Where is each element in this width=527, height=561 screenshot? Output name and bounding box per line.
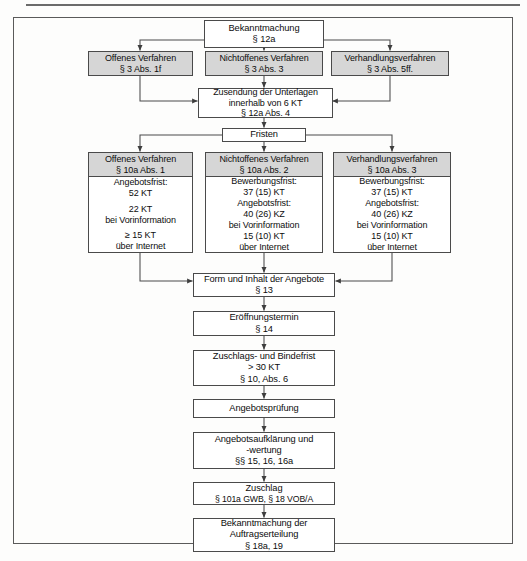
node-line: Angebotsprüfung <box>229 403 298 414</box>
node-offenes-verfahren-top[interactable]: Offenes Verfahren § 3 Abs. 1f <box>88 51 193 76</box>
node-line: § 13 <box>255 285 273 296</box>
node-line: Zuschlag <box>246 483 283 494</box>
node-line: Offenes Verfahren <box>105 154 176 165</box>
node-line: Angebotsfrist: <box>237 198 291 209</box>
node-line: Fristen <box>250 129 278 140</box>
node-offenes-verfahren-header[interactable]: Offenes Verfahren § 10a Abs. 1 <box>88 152 193 177</box>
node-line: § 3 Abs. 5ff. <box>367 64 413 75</box>
node-eroeffnungstermin[interactable]: Eröffnungstermin § 14 <box>193 311 335 336</box>
node-fristen[interactable]: Fristen <box>222 128 306 142</box>
node-line: § 18a, 19 <box>245 541 283 552</box>
node-line: 15 (10) KT <box>243 231 285 242</box>
node-line: Angebotsfrist: <box>365 198 419 209</box>
node-nichtoffenes-verfahren-header[interactable]: Nichtoffenes Verfahren § 10a Abs. 2 <box>205 152 323 177</box>
node-verhandlungsverfahren-top[interactable]: Verhandlungsverfahren § 3 Abs. 5ff. <box>331 51 449 76</box>
node-line: Form und Inhalt der Angebote <box>204 274 324 285</box>
node-line: 22 KT <box>129 204 153 215</box>
node-line: 37 (15) KT <box>243 187 285 198</box>
node-line: § 101a GWB, § 18 VOB/A <box>215 494 313 505</box>
node-line: Angebotsaufklärung und <box>215 434 314 445</box>
node-bekanntmachung[interactable]: Bekanntmachung § 12a <box>204 20 324 48</box>
node-line: innerhalb von 6 KT <box>229 98 303 109</box>
node-line: Zusendung der Unterlagen <box>213 87 318 98</box>
node-line: über Internet <box>239 242 289 253</box>
node-line: Bekanntmachung <box>229 23 300 34</box>
flowchart-page: Bekanntmachung § 12a Offenes Verfahren §… <box>0 0 527 561</box>
node-line: -wertung <box>246 445 281 456</box>
node-angebotsaufklaerung-wertung[interactable]: Angebotsaufklärung und -wertung §§ 15, 1… <box>193 432 335 469</box>
node-line: 15 (10) KT <box>371 231 413 242</box>
node-line: Offenes Verfahren <box>105 53 176 64</box>
node-line: über Internet <box>116 241 166 252</box>
node-nichtoffenes-verfahren-body[interactable]: Bewerbungsfrist: 37 (15) KT Angebotsfris… <box>205 177 323 253</box>
page-top-rule <box>26 4 520 6</box>
node-line: § 10a Abs. 2 <box>240 165 289 176</box>
node-line: über Internet <box>367 242 417 253</box>
node-line: 40 (26) KZ <box>371 209 413 220</box>
node-bekanntmachung-auftragserteilung[interactable]: Bekanntmachung der Auftragserteilung § 1… <box>193 518 335 552</box>
node-line: 52 KT <box>129 188 153 199</box>
node-line: bei Vorinformation <box>357 220 428 231</box>
node-line: 37 (15) KT <box>371 187 413 198</box>
node-line: Nichtoffenes Verfahren <box>219 154 308 165</box>
node-line: Zuschlags- und Bindefrist <box>213 351 315 362</box>
node-line: > 30 KT <box>248 362 280 373</box>
node-line: § 10a Abs. 1 <box>116 165 165 176</box>
node-line: § 12a Abs. 4 <box>241 108 290 119</box>
node-line: Nichtoffenes Verfahren <box>219 53 308 64</box>
node-line: Eröffnungstermin <box>229 312 298 323</box>
node-zusendung-unterlagen[interactable]: Zusendung der Unterlagen innerhalb von 6… <box>198 88 333 118</box>
node-offenes-verfahren-body[interactable]: Angebotsfrist: 52 KT 22 KT bei Vorinform… <box>88 177 193 253</box>
node-line: § 10, Abs. 6 <box>240 374 288 385</box>
node-verhandlungsverfahren-header[interactable]: Verhandlungsverfahren § 10a Abs. 3 <box>333 152 451 177</box>
node-nichtoffenes-verfahren-top[interactable]: Nichtoffenes Verfahren § 3 Abs. 3 <box>205 51 323 76</box>
node-line: § 10a Abs. 3 <box>368 165 417 176</box>
node-line: § 3 Abs. 1f <box>120 64 161 75</box>
node-angebotspruefung[interactable]: Angebotsprüfung <box>193 399 335 418</box>
node-line: Angebotsfrist: <box>114 177 168 188</box>
node-line: Verhandlungsverfahren <box>347 154 438 165</box>
node-zuschlag[interactable]: Zuschlag § 101a GWB, § 18 VOB/A <box>193 482 335 505</box>
node-line: bei Vorinformation <box>105 215 176 226</box>
node-line: ≥ 15 KT <box>125 230 156 241</box>
node-line: Bewerbungsfrist: <box>231 176 296 187</box>
node-line: § 14 <box>255 324 273 335</box>
node-line: bei Vorinformation <box>229 220 300 231</box>
node-verhandlungsverfahren-body[interactable]: Bewerbungsfrist: 37 (15) KT Angebotsfris… <box>333 177 451 253</box>
node-line: Bekanntmachung der <box>221 518 308 529</box>
node-line: Auftragserteilung <box>230 529 299 540</box>
node-line: § 12a <box>253 34 276 45</box>
node-form-und-inhalt[interactable]: Form und Inhalt der Angebote § 13 <box>193 273 335 297</box>
node-line: § 3 Abs. 3 <box>244 64 283 75</box>
node-line: Verhandlungsverfahren <box>345 53 436 64</box>
node-zuschlags-bindefrist[interactable]: Zuschlags- und Bindefrist > 30 KT § 10, … <box>193 350 335 386</box>
node-line: §§ 15, 16, 16a <box>235 456 293 467</box>
node-line: 40 (26) KZ <box>243 209 285 220</box>
node-line: Bewerbungsfrist: <box>359 176 424 187</box>
